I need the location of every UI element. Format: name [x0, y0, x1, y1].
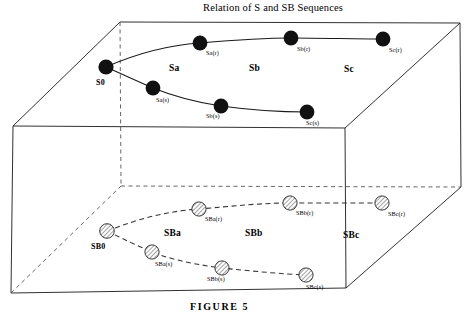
node-SBa-s[interactable]	[145, 245, 159, 259]
edge-back-right-vertical	[460, 23, 461, 187]
node-Sc-s[interactable]	[300, 105, 315, 120]
node-SBa-r[interactable]	[192, 202, 206, 216]
s-sequence-nodes	[98, 31, 390, 120]
figure-caption: FIGURE 5	[190, 302, 249, 312]
node-label-SB0: SB0	[91, 243, 105, 251]
node-label-SBb-s: SBb(s)	[207, 276, 225, 282]
figure-container: Relation of S and SB Sequences Sa Sb Sc …	[0, 0, 466, 323]
node-label-SBa-s: SBa(s)	[155, 261, 172, 267]
node-label-SBb-r: SBb(r)	[296, 210, 313, 216]
s-sequence-curves	[106, 38, 383, 112]
node-label-Sa-r: Sa(r)	[206, 50, 219, 56]
sb-sequence-curves	[107, 203, 382, 275]
top-face-outline	[13, 22, 460, 128]
region-label-sbc: SBc	[343, 231, 359, 241]
edge-front-left-vertical	[11, 126, 13, 293]
edge-front-right-vertical	[345, 128, 346, 288]
node-SBb-s[interactable]	[215, 261, 229, 275]
node-label-Sb-s: Sb(s)	[206, 113, 220, 119]
node-label-SBc-r: SBc(r)	[388, 211, 405, 217]
node-SBb-r[interactable]	[283, 196, 297, 210]
edge-back-left-vertical-hidden	[120, 22, 121, 186]
region-label-sc: Sc	[344, 65, 354, 75]
node-S0[interactable]	[98, 59, 113, 74]
region-label-sa: Sa	[169, 64, 179, 74]
edge-bottom-left-hidden	[11, 186, 121, 293]
node-label-Sa-s: Sa(s)	[156, 97, 169, 103]
sb-r-curve-path	[107, 203, 382, 231]
node-Sb-r[interactable]	[284, 31, 299, 46]
node-Sc-r[interactable]	[376, 32, 391, 47]
node-label-Sb-r: Sb(r)	[297, 46, 310, 52]
sb-s-curve-path	[107, 231, 306, 275]
node-label-Sc-r: Sc(r)	[389, 47, 402, 53]
node-label-SBc-s: SBc(s)	[306, 284, 323, 290]
node-SBc-s[interactable]	[299, 268, 313, 282]
node-label-S0: S0	[96, 79, 105, 87]
s-r-curve-path	[106, 38, 383, 67]
bottom-box-wireframe	[11, 186, 461, 293]
node-SB0[interactable]	[100, 224, 115, 239]
region-label-sbb: SBb	[245, 229, 263, 239]
figure-title: Relation of S and SB Sequences	[203, 3, 343, 14]
region-label-sb: Sb	[249, 64, 260, 74]
node-Sa-s[interactable]	[146, 81, 161, 96]
node-label-Sc-s: Sc(s)	[306, 120, 319, 126]
node-SBc-r[interactable]	[375, 196, 389, 210]
edge-bottom-right	[346, 187, 461, 288]
edge-bottom-back-hidden	[121, 186, 461, 187]
edge-bottom-front	[11, 288, 346, 293]
top-box-wireframe	[11, 22, 461, 293]
node-label-SBa-r: SBa(r)	[205, 216, 222, 222]
s-s-curve-path	[106, 67, 307, 112]
region-label-sba: SBa	[164, 229, 181, 239]
